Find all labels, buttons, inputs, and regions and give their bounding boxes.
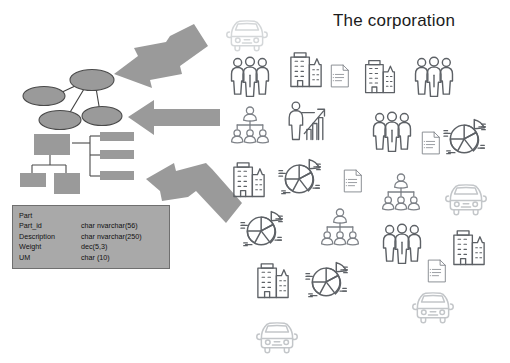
car-icon bbox=[254, 310, 300, 356]
network-node bbox=[23, 87, 65, 106]
car-icon bbox=[443, 172, 489, 218]
car-icon bbox=[410, 280, 456, 326]
document-icon bbox=[327, 63, 353, 89]
table-row: Weight dec(5,3) bbox=[19, 242, 163, 253]
hierarchy-box bbox=[54, 173, 80, 194]
pie-chart-icon bbox=[240, 207, 286, 253]
hierarchy-box bbox=[20, 173, 46, 187]
table-row: UM char (10) bbox=[19, 253, 163, 264]
hierarchy-box bbox=[100, 171, 134, 180]
page-title: The corporation bbox=[333, 11, 455, 31]
pie-chart-icon bbox=[305, 258, 351, 304]
hierarchy-box bbox=[34, 134, 70, 155]
hierarchy-box bbox=[100, 150, 134, 159]
network-node bbox=[39, 111, 81, 130]
people-group-icon bbox=[228, 55, 272, 99]
pie-chart-icon bbox=[443, 115, 489, 161]
buildings-icon bbox=[285, 47, 327, 89]
buildings-icon bbox=[448, 225, 490, 267]
people-group-icon bbox=[370, 110, 414, 154]
org-chart-icon bbox=[320, 207, 360, 247]
document-icon bbox=[418, 130, 444, 156]
network-node bbox=[82, 107, 122, 126]
arrow-middle bbox=[128, 97, 220, 143]
pie-chart-icon bbox=[278, 155, 324, 201]
people-group-icon bbox=[380, 222, 424, 266]
people-group-icon bbox=[412, 55, 456, 99]
buildings-icon bbox=[228, 157, 270, 199]
buildings-icon bbox=[252, 258, 294, 300]
arrow-top bbox=[112, 22, 212, 98]
table-row: Description char nvarchar(250) bbox=[19, 232, 163, 243]
org-chart-icon bbox=[230, 105, 270, 145]
presenter-icon bbox=[285, 100, 327, 142]
car-icon bbox=[224, 8, 270, 54]
slide-canvas: The corporation bbox=[0, 0, 510, 363]
network-node bbox=[70, 70, 114, 91]
buildings-icon bbox=[360, 55, 400, 95]
document-icon bbox=[340, 168, 366, 194]
org-chart-icon bbox=[381, 172, 421, 212]
hierarchy-diagram bbox=[16, 132, 136, 194]
